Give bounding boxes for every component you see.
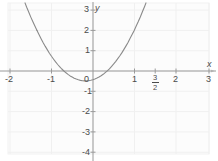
- graph-figure: -2 -1 0 1 3 2 2 3 3 2 1 -1 -2 -3 -4 y x: [0, 0, 218, 161]
- y-tick-label--2: -2: [82, 107, 90, 116]
- y-axis-label: y: [95, 4, 100, 13]
- y-tick-label--3: -3: [82, 128, 90, 137]
- fraction-denominator: 2: [149, 84, 161, 92]
- x-tick-label-three-halves: 3 2: [149, 74, 161, 92]
- x-tick-label-3: 3: [206, 75, 211, 84]
- plot-area-background: [8, 3, 209, 154]
- parabola-plot-svg: [0, 0, 218, 161]
- y-tick-label-2: 2: [84, 26, 89, 35]
- x-axis-label: x: [207, 60, 212, 69]
- x-axis-arrow: [211, 69, 215, 72]
- x-tick-label-2: 2: [173, 75, 178, 84]
- y-tick-label-1: 1: [85, 46, 90, 55]
- fraction-numerator: 3: [149, 74, 161, 82]
- y-tick-label-3: 3: [84, 5, 89, 14]
- x-tick-label-0: 0: [84, 75, 89, 84]
- y-tick-label--4: -4: [82, 148, 90, 157]
- x-tick-label--1: -1: [47, 75, 55, 84]
- x-tick-label-1: 1: [132, 75, 137, 84]
- x-tick-label--2: -2: [5, 75, 13, 84]
- y-tick-label--1: -1: [84, 87, 92, 96]
